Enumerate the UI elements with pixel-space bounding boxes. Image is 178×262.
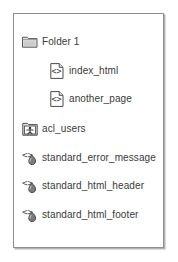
list-item[interactable]: <> another_page bbox=[48, 88, 132, 110]
list-item-label: Folder 1 bbox=[42, 37, 80, 47]
list-item-label: standard_html_footer bbox=[42, 210, 139, 220]
object-listing: Folder 1 <> index_html <> an bbox=[14, 14, 163, 247]
list-item-label: acl_users bbox=[42, 124, 86, 134]
list-item[interactable]: <> standard_html_header bbox=[21, 175, 144, 197]
dtml-method-icon: <> bbox=[21, 206, 39, 224]
svg-text:<>: <> bbox=[52, 66, 62, 76]
html-document-icon: <> bbox=[48, 62, 66, 80]
object-listing-panel: Folder 1 <> index_html <> an bbox=[13, 13, 164, 248]
dtml-method-icon: <> bbox=[21, 149, 39, 167]
list-item[interactable]: <> index_html bbox=[48, 60, 118, 82]
html-document-icon: <> bbox=[48, 90, 66, 108]
list-item-label: standard_html_header bbox=[42, 181, 144, 191]
list-item[interactable]: Folder 1 bbox=[21, 31, 80, 53]
list-item-label: standard_error_message bbox=[42, 153, 156, 163]
dtml-method-icon: <> bbox=[21, 177, 39, 195]
list-item-label: another_page bbox=[69, 94, 132, 104]
list-item[interactable]: <> standard_error_message bbox=[21, 147, 156, 169]
user-folder-icon bbox=[21, 120, 39, 138]
list-item[interactable]: acl_users bbox=[21, 118, 86, 140]
list-item[interactable]: <> standard_html_footer bbox=[21, 204, 139, 226]
folder-icon bbox=[21, 33, 39, 51]
svg-text:<>: <> bbox=[52, 94, 62, 104]
list-item-label: index_html bbox=[69, 66, 118, 76]
